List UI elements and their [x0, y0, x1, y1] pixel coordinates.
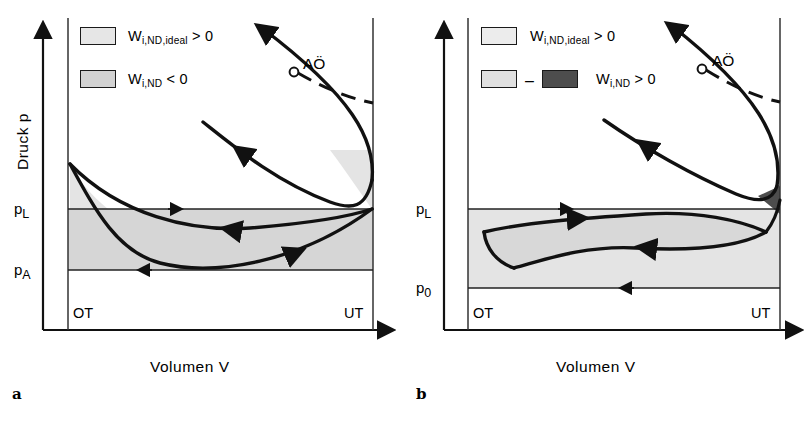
legend-swatch-light — [481, 70, 517, 88]
tick-label-pA: pA — [14, 261, 31, 282]
legend-entry-actual: Wi,ND > 0 — [596, 71, 656, 89]
ao-point-marker — [290, 68, 299, 77]
expansion-curve — [604, 120, 777, 200]
annotation-label-ao: AÖ — [303, 55, 325, 73]
blowdown-direction-arrow — [668, 24, 682, 34]
tick-label-pA-sub: A — [22, 268, 30, 282]
legend-entry-ideal: Wi,ND,ideal > 0 — [530, 28, 615, 46]
figure-root: Druck p Volumen V pL pA OT UT Wi,ND,idea… — [0, 0, 812, 422]
legend-entry-ideal-sub: i,ND,ideal — [544, 35, 590, 46]
tick-label-pL: pL — [14, 200, 29, 221]
charge-direction-arrow — [570, 218, 585, 219]
marker-label-ot: OT — [473, 305, 493, 321]
legend-swatch-ideal — [80, 27, 116, 45]
blowdown-curve — [672, 26, 778, 186]
tick-label-pL: pL — [416, 200, 431, 221]
legend-entry-actual-sub: i,ND — [610, 78, 631, 89]
legend-entry-actual-tail: > 0 — [630, 71, 655, 87]
expansion-direction-arrow — [640, 142, 654, 152]
legend-entry-actual-tail: < 0 — [162, 71, 187, 87]
legend-entry-actual-base: W — [128, 71, 142, 87]
tick-label-pL-sub: L — [22, 207, 29, 221]
legend-entry-ideal-base: W — [530, 28, 544, 44]
legend-swatch-actual — [80, 70, 116, 88]
panel-letter-a: a — [12, 385, 22, 403]
panel-letter-b: b — [416, 385, 427, 403]
legend-swatch-ideal — [481, 27, 517, 45]
y-axis-label: Druck p — [14, 113, 32, 170]
blowdown-direction-arrow — [258, 26, 272, 36]
legend-entry-actual-sub: i,ND — [142, 78, 163, 89]
panel-a: Druck p Volumen V pL pA OT UT Wi,ND,idea… — [0, 0, 406, 422]
legend-minus-operator: – — [525, 73, 534, 89]
x-axis-label: Volumen V — [556, 358, 635, 376]
caption-strip — [0, 408, 812, 422]
marker-label-ut: UT — [344, 305, 363, 321]
marker-label-ut: UT — [751, 305, 770, 321]
marker-label-ot: OT — [73, 305, 93, 321]
legend-entry-actual: Wi,ND < 0 — [128, 71, 188, 89]
legend-entry-ideal-tail: > 0 — [590, 28, 615, 44]
ideal-expansion-dashed — [706, 70, 780, 102]
legend-swatch-dark — [542, 70, 578, 88]
tick-label-pL-sub: L — [424, 207, 431, 221]
legend-entry-actual-base: W — [596, 71, 610, 87]
legend-entry-ideal-base: W — [128, 28, 142, 44]
legend-entry-ideal-tail: > 0 — [188, 28, 213, 44]
ideal-expansion-dashed — [298, 73, 373, 103]
legend-entry-ideal-sub: i,ND,ideal — [142, 35, 188, 46]
tick-label-p0-sub: 0 — [424, 286, 431, 300]
tick-label-p0: p0 — [416, 279, 431, 300]
panel-b: Volumen V pL p0 OT UT Wi,ND,ideal > 0 – … — [406, 0, 812, 422]
legend-entry-ideal: Wi,ND,ideal > 0 — [128, 28, 213, 46]
ao-point-marker — [698, 65, 707, 74]
expansion-direction-arrow — [236, 148, 250, 158]
annotation-label-ao: AÖ — [712, 52, 734, 70]
x-axis-label: Volumen V — [150, 358, 229, 376]
